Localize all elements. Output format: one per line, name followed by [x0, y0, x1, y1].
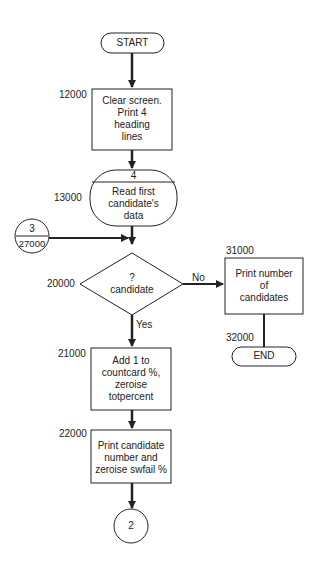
text-line: candidate — [95, 284, 169, 296]
text-line: candidate's — [90, 198, 177, 210]
process-22000-text: Print candidate number and zeroise swfai… — [91, 440, 171, 476]
connector-3-line-number: 27000 — [15, 238, 49, 250]
process-21000-text: Add 1 to countcard %, zeroise totpercent — [91, 355, 171, 403]
decision-20000-text: ? candidate — [95, 272, 169, 296]
start-label: START — [101, 37, 164, 49]
text-line: Clear screen. — [92, 95, 172, 107]
text-line: zeroise swfail % — [91, 464, 171, 476]
line-number-21000: 21000 — [58, 348, 86, 360]
line-number-20000: 20000 — [47, 278, 75, 290]
connector-3-id: 3 — [15, 223, 49, 235]
text-line: number and — [91, 452, 171, 464]
connector-4-label: 4 — [90, 170, 177, 182]
text-line: Print 4 — [92, 107, 172, 119]
process-31000-text: Print number of candidates — [225, 268, 303, 304]
text-line: candidates — [225, 292, 303, 304]
line-number-22000: 22000 — [59, 428, 87, 440]
text-line: countcard %, — [91, 367, 171, 379]
process-12000-text: Clear screen. Print 4 heading lines — [92, 95, 172, 143]
connector-2-id: 2 — [114, 520, 148, 532]
text-line: lines — [92, 131, 172, 143]
line-number-13000: 13000 — [54, 192, 82, 204]
text-line: of — [225, 280, 303, 292]
text-line: totpercent — [91, 391, 171, 403]
text-line: ? — [95, 272, 169, 284]
text-line: Read first — [90, 186, 177, 198]
text-line: Add 1 to — [91, 355, 171, 367]
line-number-12000: 12000 — [59, 89, 87, 101]
text-line: Print number — [225, 268, 303, 280]
text-line: heading — [92, 119, 172, 131]
yes-branch-label: Yes — [136, 319, 152, 331]
input-13000-text: Read first candidate's data — [90, 186, 177, 222]
text-line: data — [90, 210, 177, 222]
no-branch-label: No — [192, 272, 205, 284]
text-line: zeroise — [91, 379, 171, 391]
line-number-31000: 31000 — [226, 245, 254, 257]
end-label: END — [232, 350, 296, 362]
line-number-32000: 32000 — [226, 332, 254, 344]
text-line: Print candidate — [91, 440, 171, 452]
